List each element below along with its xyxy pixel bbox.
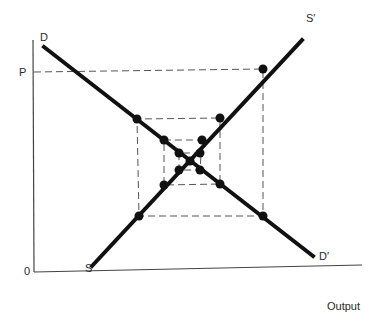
- demand-start-label: D: [40, 31, 48, 43]
- x-axis: [34, 265, 362, 272]
- demand-end-label: D′: [319, 250, 329, 262]
- y-axis: [33, 40, 34, 272]
- cobweb-diagram: [0, 0, 380, 331]
- price-label: P: [19, 66, 26, 78]
- cobweb-dashes: [34, 69, 263, 216]
- supply-start-label: S: [85, 262, 92, 274]
- x-axis-label: Output: [327, 300, 360, 312]
- supply-end-label: S′: [306, 12, 315, 24]
- origin-label: 0: [24, 265, 30, 277]
- cobweb-points: [133, 65, 268, 221]
